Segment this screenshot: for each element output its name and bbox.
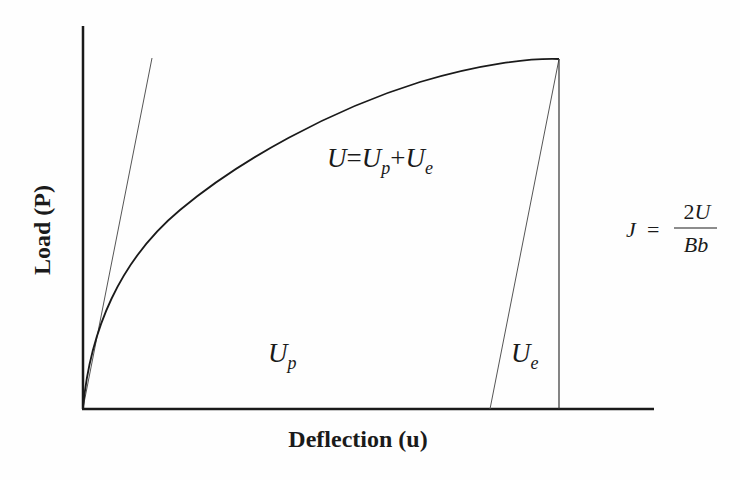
- x-axis-label: Deflection (u): [288, 426, 427, 452]
- j-integral-formula: J = 2U Bb: [626, 199, 717, 257]
- elastic-loading-line: [83, 58, 152, 408]
- elastic-energy-label: Ue: [511, 338, 539, 373]
- plastic-energy-label: Up: [268, 338, 297, 373]
- load-deflection-curve: [83, 59, 559, 408]
- svg-text:J: J: [626, 217, 637, 242]
- j-integral-diagram: Load (P) Deflection (u) U=Up+Ue Up Ue J …: [0, 0, 740, 480]
- y-axis-label: Load (P): [29, 185, 55, 275]
- total-energy-label: U=Up+Ue: [327, 143, 433, 178]
- diagram-svg: Load (P) Deflection (u) U=Up+Ue Up Ue J …: [0, 0, 740, 480]
- svg-text:=: =: [647, 217, 659, 242]
- svg-text:2U: 2U: [684, 199, 713, 224]
- svg-text:Bb: Bb: [684, 232, 708, 257]
